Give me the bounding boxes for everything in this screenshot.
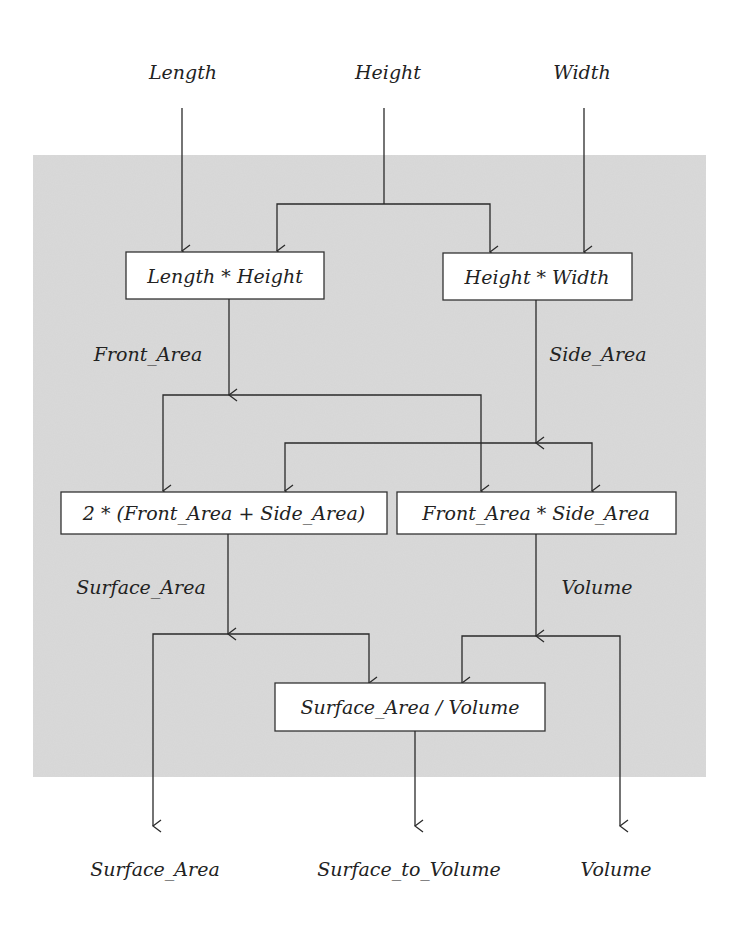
- output-surface-to-volume-label: Surface_to_Volume: [317, 858, 501, 881]
- node-ratio: Surface_Area / Volume: [275, 683, 545, 731]
- edge-label-volume: Volume: [562, 576, 633, 598]
- edge-label-surface-area: Surface_Area: [76, 576, 205, 599]
- input-length-label: Length: [148, 61, 217, 83]
- edge-label-side-area: Side_Area: [549, 343, 646, 366]
- node-label: Surface_Area / Volume: [301, 696, 520, 719]
- node-front-area: Length * Height: [126, 252, 324, 299]
- node-label: Length * Height: [146, 265, 303, 287]
- node-label: 2 * (Front_Area + Side_Area): [82, 502, 365, 525]
- node-volume: Front_Area * Side_Area: [397, 492, 676, 534]
- node-label: Front_Area * Side_Area: [421, 502, 649, 525]
- node-label: Height * Width: [464, 266, 610, 288]
- edge-label-front-area: Front_Area: [93, 343, 202, 366]
- node-surface-area: 2 * (Front_Area + Side_Area): [61, 492, 387, 534]
- output-volume-label: Volume: [581, 858, 652, 880]
- input-height-label: Height: [354, 61, 421, 83]
- input-width-label: Width: [553, 61, 610, 83]
- output-surface-area-label: Surface_Area: [90, 858, 219, 881]
- node-side-area: Height * Width: [443, 253, 632, 300]
- dataflow-diagram: Length Height Width Length * Height Heig…: [0, 0, 737, 927]
